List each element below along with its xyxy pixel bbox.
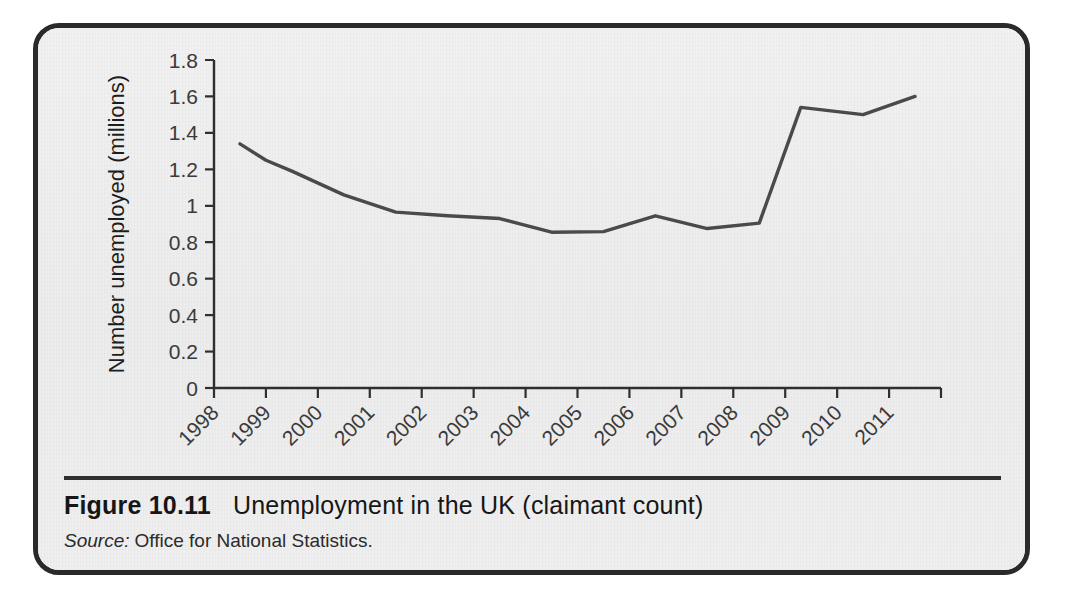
x-axis-tick-label: 2005 [537,401,586,450]
caption-divider-rule [64,476,1001,480]
source-label: Source: [64,530,129,551]
x-axis-tick-label: 2009 [745,401,794,450]
y-axis-tick-label: 1.4 [169,121,199,144]
y-axis-tick-label: 1.6 [169,85,198,108]
y-axis-tick-label: 1.2 [169,158,198,181]
x-axis-tick-label: 2011 [850,401,898,449]
x-axis-tick-label: 1998 [174,401,223,450]
x-axis-tick-label: 2000 [277,401,326,450]
x-axis-tick-label: 2003 [433,401,482,450]
x-axis-tick-label: 2006 [589,401,638,450]
x-axis-tick-label: 1999 [225,401,274,450]
unemployment-line-chart: 00.20.40.60.811.21.41.61.819981999200020… [38,28,1025,488]
y-axis-tick-label: 0 [186,377,198,400]
x-axis-tick-label: 2002 [381,401,430,450]
y-axis-tick-label: 1 [186,194,198,217]
y-axis-tick-label: 0.6 [169,267,198,290]
y-axis-title: Number unemployed (millions) [104,75,129,373]
x-axis-tick-label: 2008 [693,401,742,450]
y-axis-tick-label: 0.4 [169,304,199,327]
y-axis-tick-label: 0.2 [169,340,198,363]
source-text: Office for National Statistics. [134,530,372,551]
caption-title: Unemployment in the UK (claimant count) [233,491,704,519]
figure-card: 00.20.40.60.811.21.41.61.819981999200020… [33,23,1030,575]
caption-figure-number: Figure 10.11 [64,491,211,519]
y-axis-tick-label: 1.8 [169,49,198,72]
caption-line: Figure 10.11Unemployment in the UK (clai… [64,490,1004,520]
x-axis-tick-label: 2004 [485,400,535,450]
unemployment-data-line [240,96,915,232]
x-axis-tick-label: 2001 [329,401,378,450]
source-line: Source:Office for National Statistics. [64,529,1004,553]
caption-block: Figure 10.11Unemployment in the UK (clai… [64,490,1004,553]
y-axis-tick-label: 0.8 [169,231,198,254]
x-axis-tick-label: 2007 [641,401,690,450]
x-axis-tick-label: 2010 [797,401,846,450]
chart-plot-area: 00.20.40.60.811.21.41.61.819981999200020… [38,28,1025,488]
